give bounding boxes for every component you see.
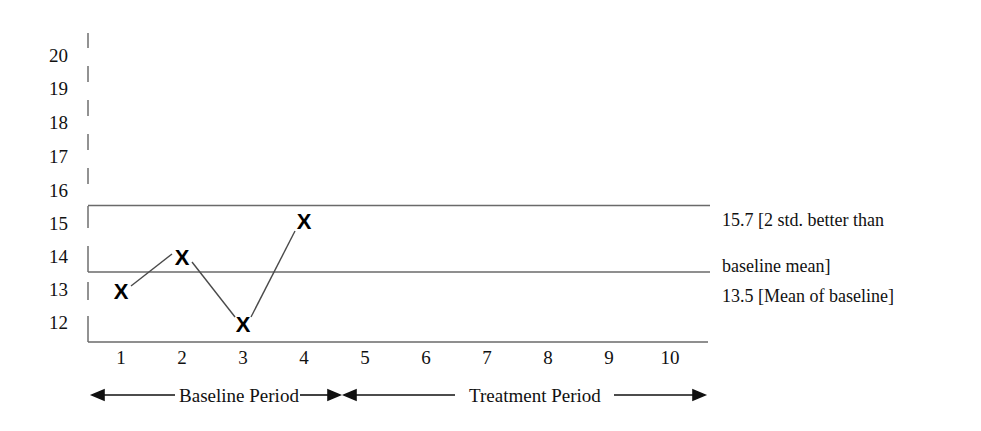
- y-tick-label: 12: [22, 313, 68, 332]
- x-tick-label: 5: [345, 348, 385, 367]
- data-point-marker: X: [291, 211, 317, 233]
- reference-annotation-mean: 13.5 [Mean of baseline]: [722, 262, 972, 308]
- y-tick-label: 14: [22, 247, 68, 266]
- data-series-line: [131, 231, 295, 317]
- x-tick-label: 3: [223, 348, 263, 367]
- x-tick-label: 10: [650, 348, 690, 367]
- reference-annotation-mean-line1: 13.5 [Mean of baseline]: [722, 286, 894, 306]
- baseline-period-label: Baseline Period: [175, 386, 303, 405]
- x-tick-label: 6: [406, 348, 446, 367]
- x-tick-label: 4: [284, 348, 324, 367]
- y-tick-label: 17: [22, 147, 68, 166]
- x-tick-label: 2: [162, 348, 202, 367]
- y-tick-label: 19: [22, 79, 68, 98]
- x-tick-label: 8: [528, 348, 568, 367]
- treatment-period-label: Treatment Period: [455, 386, 615, 405]
- y-tick-label: 20: [22, 46, 68, 65]
- data-point-marker: X: [230, 314, 256, 336]
- y-tick-label: 13: [22, 280, 68, 299]
- x-tick-label: 1: [101, 348, 141, 367]
- y-tick-label: 18: [22, 113, 68, 132]
- single-case-design-chart: 20 19 18 17 16 15 14 13 12 1 2 3 4 5 6 7…: [0, 0, 981, 431]
- data-point-marker: X: [108, 281, 134, 303]
- data-point-marker: X: [169, 247, 195, 269]
- x-tick-label: 7: [467, 348, 507, 367]
- y-tick-label: 16: [22, 181, 68, 200]
- reference-annotation-upper-line1: 15.7 [2 std. better than: [722, 210, 884, 230]
- y-tick-label: 15: [22, 214, 68, 233]
- x-tick-label: 9: [589, 348, 629, 367]
